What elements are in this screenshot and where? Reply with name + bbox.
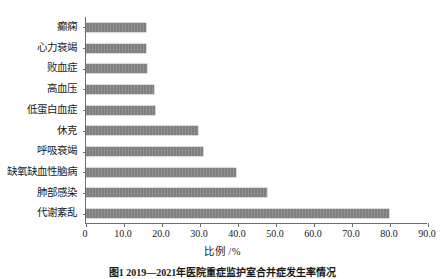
bar	[86, 106, 155, 115]
plot-area	[85, 17, 427, 224]
x-axis-tick	[390, 223, 391, 227]
x-axis-tick	[276, 223, 277, 227]
x-axis-tick-label: 20.0	[152, 228, 170, 239]
bar-row	[86, 162, 428, 183]
x-axis-tick-label: 0	[83, 228, 88, 239]
y-axis-tick	[83, 110, 86, 111]
y-axis-tick	[83, 27, 86, 28]
y-axis-tick	[83, 69, 86, 70]
bar-row	[86, 79, 428, 100]
y-axis-category-label: 呼吸衰竭	[37, 141, 77, 162]
bar	[86, 23, 146, 32]
bar	[86, 64, 147, 73]
bar	[86, 147, 203, 156]
y-axis-category-labels: 癫痫心力衰竭败血症高血压低蛋白血症休克呼吸衰竭缺氧缺血性脑病肺部感染代谢紊乱	[0, 17, 82, 224]
bar	[86, 209, 389, 218]
x-axis-tick-label: 80.0	[380, 228, 398, 239]
bar	[86, 44, 146, 53]
bar-row	[86, 203, 428, 224]
y-axis-category-label: 败血症	[47, 58, 77, 79]
x-axis-tick-label: 10.0	[114, 228, 132, 239]
y-axis-tick	[83, 214, 86, 215]
bar-row	[86, 141, 428, 162]
bar	[86, 85, 154, 94]
y-axis-tick	[83, 131, 86, 132]
y-axis-category-label: 心力衰竭	[37, 38, 77, 59]
bar-row	[86, 100, 428, 121]
bar	[86, 126, 198, 135]
x-axis-tick	[428, 223, 429, 227]
y-axis-category-label: 休克	[57, 121, 77, 142]
x-axis-tick-label: 40.0	[228, 228, 246, 239]
y-axis-category-label: 癫痫	[57, 17, 77, 38]
bar-row	[86, 121, 428, 142]
y-axis-category-label: 缺氧缺血性脑病	[7, 162, 77, 183]
x-axis-tick	[352, 223, 353, 227]
x-axis-tick	[314, 223, 315, 227]
x-axis-tick-label: 60.0	[304, 228, 322, 239]
x-axis-title: 比例 /%	[0, 243, 445, 258]
x-axis-tick-label: 70.0	[342, 228, 360, 239]
bar-row	[86, 183, 428, 204]
x-axis-tick	[86, 223, 87, 227]
y-axis-category-label: 肺部感染	[37, 183, 77, 204]
y-axis-category-label: 高血压	[47, 79, 77, 100]
bar	[86, 168, 236, 177]
x-axis-tick-label: 50.0	[266, 228, 284, 239]
bar-row	[86, 17, 428, 38]
bar-row	[86, 58, 428, 79]
figure-caption: 图1 2019—2021年医院重症监护室合并症发生率情况	[0, 264, 445, 279]
bar-series	[86, 17, 427, 223]
bar-row	[86, 38, 428, 59]
y-axis-tick	[83, 172, 86, 173]
x-axis-tick-label: 90.0	[418, 228, 436, 239]
x-axis-tick-label: 30.0	[190, 228, 208, 239]
x-axis-tick	[238, 223, 239, 227]
x-axis-tick	[124, 223, 125, 227]
y-axis-tick	[83, 152, 86, 153]
x-axis-tick	[200, 223, 201, 227]
x-axis-tick	[162, 223, 163, 227]
y-axis-tick	[83, 193, 86, 194]
bar	[86, 188, 267, 197]
y-axis-tick	[83, 48, 86, 49]
y-axis-tick	[83, 89, 86, 90]
y-axis-category-label: 低蛋白血症	[27, 100, 77, 121]
y-axis-category-label: 代谢紊乱	[37, 203, 77, 224]
